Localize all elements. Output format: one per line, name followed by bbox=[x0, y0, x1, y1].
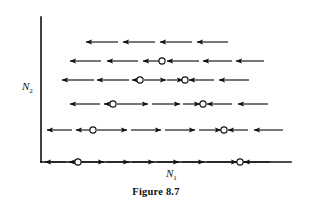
equilibrium-point-circle bbox=[221, 127, 227, 133]
x-axis-label: N1 bbox=[165, 167, 177, 182]
equilibrium-point-circle bbox=[159, 58, 165, 64]
field-row bbox=[47, 127, 283, 133]
field-row bbox=[45, 159, 270, 165]
equilibrium-point-circle bbox=[110, 101, 116, 107]
equilibrium-point-circle bbox=[182, 77, 188, 83]
equilibrium-point-circle bbox=[237, 159, 243, 165]
figure-container: N2 N1 Figure 8.7 bbox=[0, 0, 312, 210]
equilibrium-point-circle bbox=[75, 159, 81, 165]
y-axis-label: N2 bbox=[21, 80, 33, 95]
field-row bbox=[62, 77, 249, 83]
equilibrium-point-circle bbox=[200, 101, 206, 107]
direction-field bbox=[45, 42, 283, 165]
field-row bbox=[70, 101, 268, 107]
axes bbox=[41, 17, 291, 162]
equilibrium-point-circle bbox=[90, 127, 96, 133]
phase-plane-diagram: N2 N1 bbox=[0, 0, 312, 210]
field-row bbox=[70, 58, 264, 64]
figure-caption: Figure 8.7 bbox=[0, 186, 312, 197]
equilibrium-point-circle bbox=[137, 77, 143, 83]
